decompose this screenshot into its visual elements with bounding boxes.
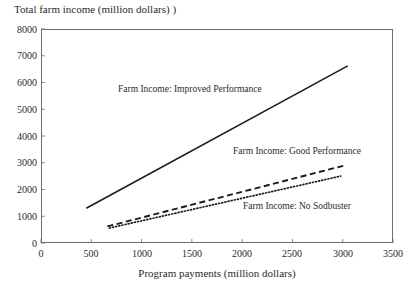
- x-tick-label: 1500: [182, 249, 202, 259]
- x-tick-label: 0: [39, 249, 44, 259]
- x-tick-label: 3000: [333, 249, 353, 259]
- series-annotation-label: Farm Income: Improved Performance: [118, 84, 262, 95]
- series-annotation-label: Farm Income: No Sodbuster: [243, 201, 351, 212]
- x-axis-title: Program payments (million dollars): [138, 267, 295, 280]
- series-annotation-label: Farm Income: Good Performance: [233, 146, 361, 157]
- x-tick-label: 2500: [282, 249, 302, 259]
- x-tick-label: 3500: [383, 249, 403, 259]
- x-tick-label: 500: [84, 249, 99, 259]
- x-tick-label: 2000: [232, 249, 252, 259]
- chart-page: Total farm income (million dollars) ) 80…: [0, 0, 416, 292]
- x-tick-label: 1000: [132, 249, 152, 259]
